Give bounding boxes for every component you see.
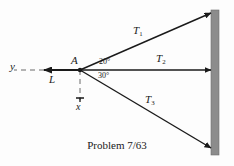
wall	[211, 10, 219, 155]
axis-x-label: x	[76, 101, 80, 112]
figure-caption: Problem 7/63	[0, 139, 234, 151]
cable-t3-label: T3	[145, 93, 155, 106]
problem-figure: T1 T2 T3 A L y x 20° 30° Problem 7/63	[0, 0, 234, 166]
axis-y-label: y	[10, 60, 15, 72]
angle-20-label: 20°	[99, 57, 110, 66]
junction-point-a	[78, 68, 82, 72]
force-l-label: L	[49, 73, 55, 85]
cable-t2-label: T2	[156, 52, 166, 65]
cable-t3-line	[80, 70, 211, 148]
angle-30-label: 30°	[98, 71, 109, 80]
point-a-label: A	[71, 54, 78, 66]
cable-t3-subscript: 3	[151, 99, 154, 106]
cable-t2-subscript: 2	[162, 58, 165, 65]
cable-t1-subscript: 1	[139, 30, 142, 37]
cable-t1-label: T1	[133, 24, 143, 37]
